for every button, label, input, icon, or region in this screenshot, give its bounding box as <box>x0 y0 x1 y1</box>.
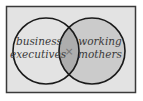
left-label-line2: executives <box>10 48 67 60</box>
right-label-line1: working <box>78 35 122 47</box>
intersection-x-mark: × <box>64 45 73 58</box>
right-label-line2: mothers <box>78 48 122 60</box>
left-label-line1: business <box>16 35 63 47</box>
venn-diagram: business executives working mothers × <box>0 0 143 101</box>
